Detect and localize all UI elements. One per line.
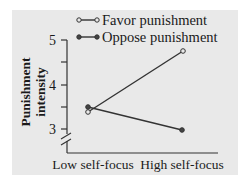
data-point-oppose-low: [86, 105, 91, 110]
svg-text:Punishment: Punishment: [18, 57, 33, 127]
x-tick-label-high: High self-focus: [140, 157, 224, 172]
legend-label-favor: Favor punishment: [102, 12, 207, 28]
legend-label-oppose: Oppose punishment: [102, 29, 218, 45]
open-circle-marker-icon: [77, 18, 81, 22]
series-favor-punishment: [86, 49, 186, 115]
legend-item-oppose: Oppose punishment: [77, 29, 218, 45]
open-circle-marker-icon: [95, 18, 99, 22]
y-tick-label: 4: [49, 78, 56, 93]
y-axis: 5 4 3: [49, 33, 71, 153]
y-axis-label: Punishment intensity: [18, 57, 48, 127]
y-tick-label: 3: [49, 122, 56, 137]
axis-break-icon: [61, 139, 71, 145]
legend-item-favor: Favor punishment: [77, 12, 207, 28]
legend: Favor punishment Oppose punishment: [77, 12, 218, 45]
filled-circle-marker-icon: [95, 35, 99, 39]
x-axis: Low self-focus High self-focus: [52, 153, 223, 172]
y-tick-label: 5: [49, 33, 56, 48]
svg-text:intensity: intensity: [33, 67, 48, 117]
data-point-favor-low: [86, 110, 91, 115]
line-chart: Favor punishment Oppose punishment Punis…: [0, 0, 250, 185]
series-oppose-punishment: [86, 105, 185, 133]
data-point-oppose-high: [180, 128, 185, 133]
axis-break-icon: [61, 133, 71, 139]
data-point-favor-high: [181, 49, 186, 54]
filled-circle-marker-icon: [77, 35, 81, 39]
x-tick-label-low: Low self-focus: [52, 157, 133, 172]
